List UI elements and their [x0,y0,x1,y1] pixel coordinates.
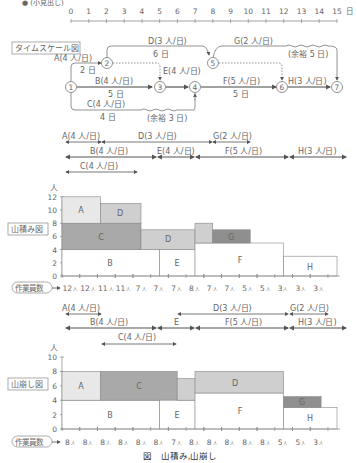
axis-tick-label: 5 [157,7,162,16]
axis-tick-label: 13 [297,7,307,16]
y-tick-label: 2 [52,259,57,268]
activity-e-label: E(4 人/日) [163,67,201,76]
chart1-label: 山積み図 [11,224,43,234]
node-5-label: 5 [211,59,216,68]
bar2-b-label: B(4 人/日) [90,318,128,327]
svg-text:H: H [307,263,313,272]
node-6-label: 6 [280,83,285,92]
svg-text:C: C [98,233,104,242]
worker-count: 5人 [295,438,306,447]
axis-unit: 日 [346,7,353,16]
section-note: ● (小見出し) [22,0,64,7]
worker-count: 5人 [242,284,253,293]
worker-count: 11人 [116,284,132,293]
axis-tick-label: 12 [279,7,289,16]
activity-g-label: G(2 人/日) [234,37,273,46]
bar2-h-label: H(3 人/日) [298,318,337,327]
bar2-c-label: C(4 人/日) [118,333,156,342]
timescale-label: タイムスケール図 [15,44,79,53]
svg-text:C: C [136,382,142,391]
svg-text:F: F [238,407,243,416]
activity-a-label: A(4 人/日) [54,54,92,63]
chart-yamazumi: 人 024681012 山積み図 ADC [8,184,340,281]
worker-count: 7人 [207,284,218,293]
bar1-f-label: F(5 人/日) [225,147,262,156]
activity-c-days: 4 日 [100,113,116,122]
chart-yamakuzushi: 人 0246810 山崩し図 ACD BEF GH [8,344,340,434]
worker-count: 8人 [189,284,200,293]
worker-count: 3人 [295,284,306,293]
worker-count: 3人 [313,284,324,293]
svg-text:D: D [232,379,238,388]
svg-text:D: D [165,235,171,244]
svg-text:B: B [107,259,113,268]
figure-caption: 図 山積み,山崩し [143,451,218,461]
svg-text:A: A [78,382,84,391]
chart2-y-unit: 人 [50,344,58,353]
node-7-label: 7 [335,83,340,92]
worker-count: 8人 [154,438,165,447]
worker-count: 7人 [224,284,235,293]
worker-count: 8人 [118,438,129,447]
block-d-3 [195,223,213,243]
activity-f-label: F(5 人/日) [223,77,260,86]
worker-count: 8人 [242,438,253,447]
axis-tick-label: 2 [104,7,109,16]
axis-tick-label: 14 [314,7,324,16]
worker-count: 12人 [80,284,96,293]
y-tick-label: 4 [52,396,57,405]
worker-count: 8人 [136,438,147,447]
y-tick-label: 6 [52,232,57,241]
activity-b-label: B(4 人/日) [95,77,133,86]
y-tick-label: 0 [52,272,57,281]
y-tick-label: 10 [47,353,57,362]
worker-count: 11人 [98,284,114,293]
axis-tick-label: 10 [244,7,254,16]
workers-label-1: 作業員数 [15,283,44,293]
svg-text:H: H [307,414,313,423]
node-4-label: 4 [193,83,198,92]
y-tick-label: 2 [52,411,57,420]
block2-d-2 [195,371,284,393]
activity-g-float: (余裕 5 日) [288,49,328,59]
worker-count: 12人 [63,284,79,293]
axis-tick-label: 15 [332,7,342,16]
worker-count: 8人 [83,438,94,447]
worker-count: 7人 [171,284,182,293]
activity-d-label: D(3 人/日) [148,37,187,46]
y-tick-label: 10 [47,206,57,215]
axis-tick-label: 7 [193,7,198,16]
bar1-h-label: H(3 人/日) [298,147,337,156]
activity-b-days: 5 日 [108,90,124,99]
bar2-g-label: G(2 人/日) [290,304,329,313]
worker-count: 3人 [313,438,324,447]
worker-count: 8人 [100,438,111,447]
axis-tick-label: 3 [122,7,127,16]
axis-tick-label: 9 [228,7,233,16]
svg-text:E: E [174,411,179,420]
worker-count: 8人 [189,438,200,447]
node-2-label: 2 [105,59,110,68]
workers-label-2: 作業員数 [15,437,44,447]
worker-count: 8人 [224,438,235,447]
worker-count: 3人 [278,284,289,293]
node-1-label: 1 [69,83,74,92]
activity-f-days: 5 日 [233,90,249,99]
node-3-label: 3 [158,83,163,92]
bar1-a-label: A(4 人/日) [62,132,100,141]
bar2-f-label: F(5 人/日) [225,318,262,327]
bar2-e-label: E [174,318,179,327]
bar1-g-label: G(2 人/日) [213,132,252,141]
activity-c-float: (余裕 3 日) [147,113,187,123]
chart2-label: 山崩し図 [11,379,43,389]
svg-text:B: B [107,411,113,420]
bar1-b-label: B(4 人/日) [90,147,128,156]
bar2-d-label: D(3 人/日) [213,304,252,313]
svg-text:A: A [78,206,84,215]
axis-tick-label: 8 [210,7,215,16]
svg-text:G: G [299,398,305,407]
y-tick-label: 6 [52,382,57,391]
y-tick-label: 12 [47,193,57,202]
y-tick-label: 4 [52,246,57,255]
worker-count: 8人 [65,438,76,447]
